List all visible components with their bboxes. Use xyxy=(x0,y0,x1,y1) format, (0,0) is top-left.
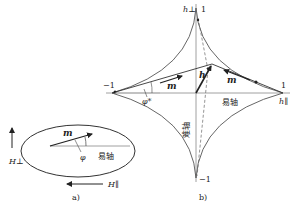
phi-star-arc xyxy=(151,82,152,93)
h-par-axis-label: h∥ xyxy=(279,97,288,106)
caption-a: a) xyxy=(72,193,80,202)
h-perp-axis-label: h⊥ xyxy=(183,5,196,14)
particle-ellipse xyxy=(21,125,135,177)
panel-a: m φ 易轴 H⊥ H∥ a) xyxy=(8,125,135,202)
right-tick-label: 1 xyxy=(281,81,286,90)
m-left-label: m xyxy=(167,81,177,91)
panel-b: h m m φ* h⊥ 1 −1 −1 1 h∥ 易轴 难轴 b) xyxy=(103,4,290,202)
tangent-left xyxy=(112,64,212,93)
easy-axis-label: 易轴 xyxy=(222,97,238,107)
bottom-tick-label: −1 xyxy=(199,175,211,184)
easy-axis-label: 易轴 xyxy=(98,151,114,161)
phi-angle-arc xyxy=(85,137,86,146)
caption-b: b) xyxy=(199,193,207,202)
stoner-wohlfarth-figure: m φ 易轴 H⊥ H∥ a) h m m xyxy=(0,0,303,211)
phi-label: φ xyxy=(80,153,86,162)
dashed-line-lower xyxy=(197,70,208,176)
h-perp-label: H⊥ xyxy=(8,157,24,166)
tangent-point-right xyxy=(255,81,258,84)
phi-star-label: φ* xyxy=(142,97,152,106)
top-tick-label: 1 xyxy=(201,5,206,14)
h-label: h xyxy=(199,70,206,80)
tangent-point-top xyxy=(197,19,199,21)
m-label: m xyxy=(63,128,73,138)
hard-axis-label: 难轴 xyxy=(181,122,191,138)
m-right-label: m xyxy=(227,75,237,85)
h-par-label: H∥ xyxy=(107,180,119,189)
left-tick-label: −1 xyxy=(103,81,115,90)
